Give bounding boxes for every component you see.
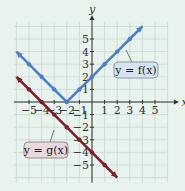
chart: −5−4−3−2−11234554321−1−2−3−4−5xy y = f(x… xyxy=(0,0,185,191)
y-tick-label: 3 xyxy=(82,58,89,71)
y-tick-label: 4 xyxy=(82,46,89,59)
x-tick-label: 4 xyxy=(139,104,146,117)
y-tick-label: 5 xyxy=(82,33,89,46)
grid xyxy=(14,23,168,183)
g-label-text: y = g(x) xyxy=(23,144,68,157)
y-tick-label: −5 xyxy=(73,159,89,172)
x-axis-label: x xyxy=(181,96,185,109)
y-tick-label: −1 xyxy=(73,109,89,122)
y-tick-label: −2 xyxy=(73,121,89,134)
x-tick-label: 2 xyxy=(114,104,121,117)
x-tick-label: 5 xyxy=(152,104,159,117)
y-axis-label: y xyxy=(88,3,96,16)
f-label-text: y = f(x) xyxy=(114,64,156,77)
x-tick-label: 3 xyxy=(126,104,133,117)
x-tick-label: 1 xyxy=(101,104,108,117)
